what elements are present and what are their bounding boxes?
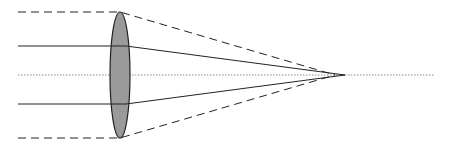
paraxial-ray [18, 75, 345, 104]
convex-lens [110, 12, 130, 138]
marginal-rays [18, 12, 335, 138]
paraxial-ray [18, 46, 345, 75]
marginal-ray [18, 75, 335, 138]
marginal-ray [18, 12, 335, 75]
lens-aberration-diagram [0, 0, 459, 151]
